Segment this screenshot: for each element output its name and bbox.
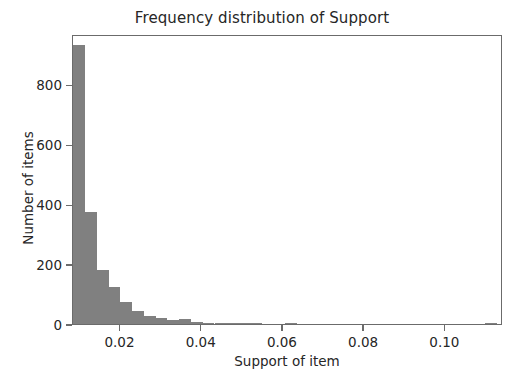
histogram-bar [250,323,262,324]
histogram-bar [156,318,168,324]
y-tick-mark [66,264,72,265]
x-tick-label: 0.04 [171,334,231,350]
histogram-bar [179,319,191,324]
histogram-bar [85,212,97,324]
histogram-bars [73,36,501,324]
histogram-bar [226,323,238,324]
x-tick-mark [444,325,445,331]
histogram-bar [238,323,250,324]
histogram-bar [285,323,297,324]
y-tick-mark [66,85,72,86]
histogram-bar [97,270,109,324]
x-tick-label: 0.06 [252,334,312,350]
histogram-bar [203,323,215,324]
histogram-bar [485,323,497,324]
y-tick-mark [66,324,72,325]
chart-title: Frequency distribution of Support [0,9,524,27]
y-tick-label: 0 [14,317,62,333]
x-tick-mark [281,325,282,331]
y-axis-title: Number of items [20,108,36,268]
histogram-bar [167,320,179,324]
x-tick-mark [362,325,363,331]
x-axis-title: Support of item [72,353,502,369]
histogram-bar [144,316,156,324]
histogram-bar [191,322,203,324]
histogram-bar [109,287,121,324]
x-tick-label: 0.10 [414,334,474,350]
y-tick-label: 800 [14,77,62,93]
x-tick-mark [119,325,120,331]
y-tick-mark [66,145,72,146]
x-tick-label: 0.02 [90,334,150,350]
plot-area [72,35,502,325]
x-tick-label: 0.08 [333,334,393,350]
histogram-figure: Frequency distribution of Support 020040… [0,0,524,386]
y-tick-mark [66,205,72,206]
histogram-bar [120,302,132,324]
x-tick-mark [200,325,201,331]
histogram-bar [73,45,85,324]
histogram-bar [132,311,144,324]
histogram-bar [215,323,227,324]
